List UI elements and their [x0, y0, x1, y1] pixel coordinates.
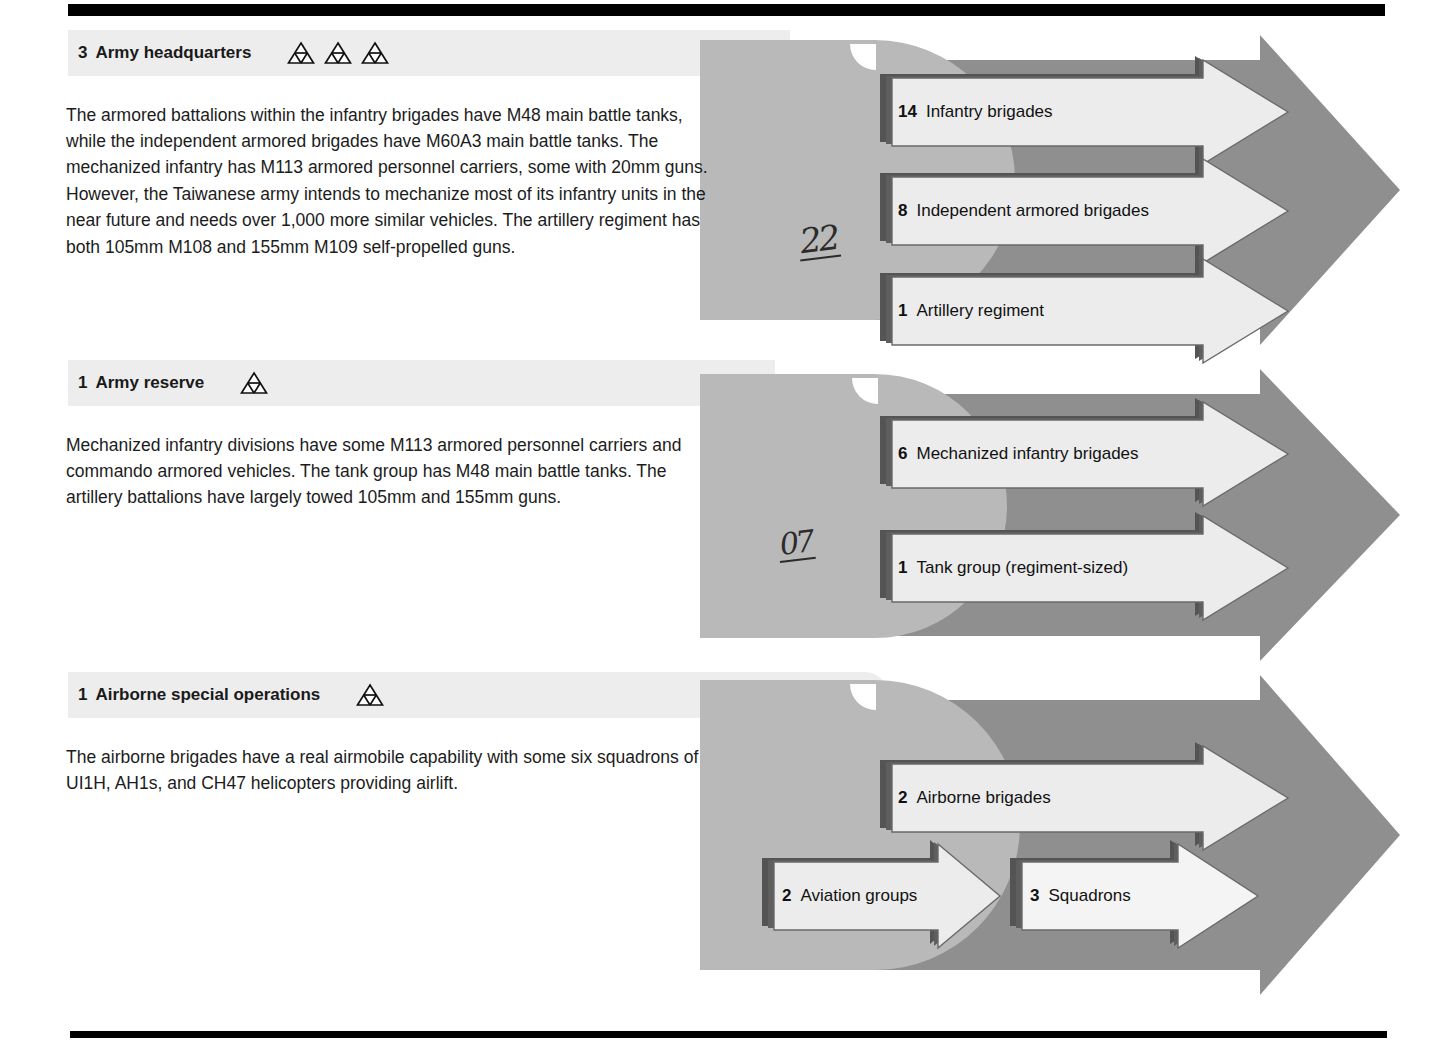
armored-unit-symbol — [240, 371, 268, 395]
section-title: Army headquarters — [95, 43, 251, 63]
callout-text: Tank group (regiment-sized) — [916, 558, 1128, 578]
section-body-text: Mechanized infantry divisions have some … — [66, 432, 714, 511]
callout-text: Artillery regiment — [916, 301, 1044, 321]
callout-text: Mechanized infantry brigades — [916, 444, 1138, 464]
callout-count: 14 — [898, 102, 917, 122]
callout-label: 1 Tank group (regiment-sized) — [898, 558, 1128, 578]
section-header: 1 Airborne special operations — [78, 672, 384, 718]
callout-label: 1 Artillery regiment — [898, 301, 1044, 321]
bottom-rule — [70, 1031, 1387, 1038]
section-title: Airborne special operations — [95, 685, 320, 705]
callout-label: 2 Aviation groups — [782, 886, 917, 906]
armored-unit-symbol — [361, 41, 389, 65]
section-count: 1 — [78, 373, 87, 393]
section-body-text: The airborne brigades have a real airmob… — [66, 744, 714, 797]
section-header: 3 Army headquarters — [78, 30, 389, 76]
callout-count: 6 — [898, 444, 907, 464]
callout-count: 2 — [898, 788, 907, 808]
callout-label: 6 Mechanized infantry brigades — [898, 444, 1139, 464]
callout-count: 2 — [782, 886, 791, 906]
org-diagram: 14 Infantry brigades 8 Independent armor… — [700, 30, 1445, 375]
armored-unit-symbol — [287, 41, 315, 65]
org-diagram: 6 Mechanized infantry brigades 1 Tank gr… — [700, 360, 1445, 680]
section-title: Army reserve — [95, 373, 204, 393]
org-diagram: 2 Airborne brigades 2 Aviation groups 3 … — [700, 672, 1445, 1012]
callout-label: 2 Airborne brigades — [898, 788, 1051, 808]
section-header: 1 Army reserve — [78, 360, 268, 406]
section-army-headquarters: 3 Army headquarters The armore — [0, 30, 1445, 375]
section-airborne-special-operations: 1 Airborne special operations The airbor… — [0, 672, 1445, 1012]
callout-count: 3 — [1030, 886, 1039, 906]
unit-symbol-group — [287, 41, 389, 65]
callout-label: 14 Infantry brigades — [898, 102, 1053, 122]
section-count: 1 — [78, 685, 87, 705]
handwritten-annotation: 22 — [796, 220, 841, 262]
callout-count: 1 — [898, 301, 907, 321]
unit-symbol-group — [356, 683, 384, 707]
unit-symbol-group — [240, 371, 268, 395]
section-count: 3 — [78, 43, 87, 63]
armored-unit-symbol — [356, 683, 384, 707]
callout-label: 8 Independent armored brigades — [898, 201, 1149, 221]
callout-text: Squadrons — [1048, 886, 1130, 906]
handwritten-annotation: 07 — [776, 526, 816, 563]
callout-count: 8 — [898, 201, 907, 221]
top-rule — [68, 4, 1385, 16]
callout-text: Aviation groups — [800, 886, 917, 906]
callout-count: 1 — [898, 558, 907, 578]
callout-text: Independent armored brigades — [916, 201, 1149, 221]
armored-unit-symbol — [324, 41, 352, 65]
callout-label: 3 Squadrons — [1030, 886, 1131, 906]
section-army-reserve: 1 Army reserve Mechanized infantry divis… — [0, 360, 1445, 680]
callout-text: Infantry brigades — [926, 102, 1053, 122]
section-body-text: The armored battalions within the infant… — [66, 102, 714, 260]
callout-text: Airborne brigades — [916, 788, 1050, 808]
